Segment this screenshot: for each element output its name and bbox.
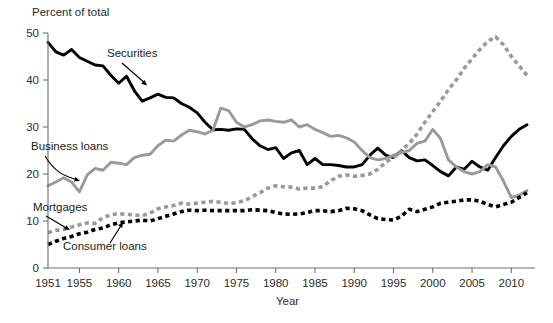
text-layer: 0102030405019511955196019651970197519801… — [26, 6, 524, 307]
series-line-consumer-loans — [48, 193, 527, 245]
y-tick-label-0: 0 — [33, 262, 39, 274]
annotation-arrow-business-loans — [45, 156, 78, 180]
annotation-label-business-loans: Business loans — [31, 140, 109, 152]
series-line-mortgages — [48, 37, 527, 233]
y-tick-label-20: 20 — [26, 168, 39, 180]
annotation-arrow-securities — [122, 63, 146, 84]
chart-figure: 0102030405019511955196019651970197519801… — [0, 0, 553, 323]
series-line-business-loans — [48, 108, 527, 197]
annotation-label-securities: Securities — [107, 47, 158, 59]
series-line-securities — [48, 42, 527, 175]
annotation-arrow-mortgages — [46, 216, 68, 229]
x-tick-label-1995: 1995 — [381, 277, 407, 289]
x-tick-label-1955: 1955 — [67, 277, 93, 289]
annotation-label-consumer-loans: Consumer loans — [63, 240, 147, 252]
y-axis-title: Percent of total — [32, 6, 109, 18]
x-tick-label-2010: 2010 — [498, 277, 524, 289]
x-tick-label-1990: 1990 — [341, 277, 367, 289]
annotation-label-mortgages: Mortgages — [33, 201, 88, 213]
axis-lines — [48, 33, 535, 268]
x-tick-label-1985: 1985 — [302, 277, 328, 289]
series-layer — [48, 37, 527, 245]
y-tick-label-10: 10 — [26, 215, 39, 227]
x-axis-title: Year — [276, 295, 299, 307]
x-tick-label-1960: 1960 — [106, 277, 132, 289]
x-tick-label-1975: 1975 — [224, 277, 250, 289]
y-tick-label-40: 40 — [26, 74, 39, 86]
arrow-head — [74, 177, 80, 182]
chart-svg: 0102030405019511955196019651970197519801… — [0, 0, 553, 323]
x-tick-label-1965: 1965 — [145, 277, 171, 289]
y-tick-label-50: 50 — [26, 27, 39, 39]
x-tick-label-1980: 1980 — [263, 277, 289, 289]
x-tick-label-1970: 1970 — [184, 277, 210, 289]
y-tick-label-30: 30 — [26, 121, 39, 133]
x-tick-label-2000: 2000 — [420, 277, 446, 289]
x-tick-label-1951: 1951 — [35, 277, 61, 289]
x-tick-label-2005: 2005 — [459, 277, 485, 289]
